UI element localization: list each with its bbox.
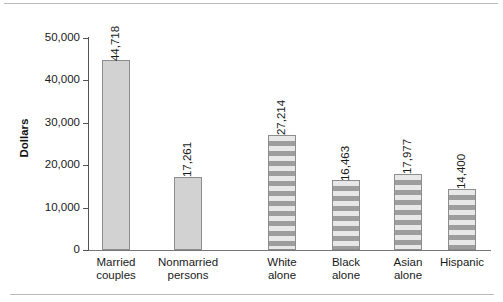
- x-axis-line: [88, 250, 491, 251]
- x-axis-category-label-line1: Nonmarried: [152, 256, 224, 269]
- bottom-divider-rule: [10, 294, 494, 295]
- x-axis-category-label-line2: alone: [246, 269, 318, 282]
- y-axis-line: [88, 37, 89, 251]
- top-divider-rule: [4, 3, 498, 4]
- y-axis-tick-label: 0: [74, 244, 80, 256]
- x-axis-category-label-line2: persons: [152, 269, 224, 282]
- y-axis-tick-label-row: 0: [0, 250, 80, 251]
- x-axis-category-label-line1: White: [246, 256, 318, 269]
- bar: [174, 177, 202, 250]
- y-axis-tick-label-row: 50,000: [0, 38, 80, 39]
- x-axis-category-label: Whitealone: [246, 256, 318, 282]
- bar: [448, 189, 476, 250]
- y-axis-tick: [83, 165, 89, 166]
- y-axis-tick-label: 50,000: [45, 32, 80, 44]
- bar-value-label: 14,400: [456, 149, 469, 195]
- bar: [102, 60, 130, 250]
- x-axis-category-label-line1: Married: [80, 256, 152, 269]
- bar-value-label: 17,977: [402, 134, 415, 180]
- bar-value-label: 44,718: [110, 20, 123, 66]
- x-axis-category-label: Nonmarriedpersons: [152, 256, 224, 282]
- bar: [394, 174, 422, 250]
- bar-value-label: 16,463: [340, 140, 353, 186]
- y-axis-tick-label-row: 40,000: [0, 80, 80, 81]
- bar-value-label: 17,261: [182, 137, 195, 183]
- x-axis-category-label-line2: alone: [372, 269, 444, 282]
- y-axis-tick-label: 20,000: [45, 159, 80, 171]
- y-axis-tick-label-row: 20,000: [0, 165, 80, 166]
- y-axis-tick-label-row: 10,000: [0, 208, 80, 209]
- y-axis-tick: [83, 208, 89, 209]
- bar-chart-figure: Dollars 010,00020,00030,00040,00050,000 …: [0, 0, 503, 302]
- y-axis-title: Dollars: [18, 108, 30, 168]
- y-axis-tick: [83, 38, 89, 39]
- y-axis-tick: [83, 123, 89, 124]
- bar: [268, 135, 296, 250]
- x-axis-category-label: Hispanic: [426, 256, 498, 269]
- y-axis-tick-label: 10,000: [45, 202, 80, 214]
- y-axis-tick-label: 30,000: [45, 117, 80, 129]
- y-axis-tick: [83, 250, 89, 251]
- y-axis-tick-label-row: 30,000: [0, 123, 80, 124]
- bar: [332, 180, 360, 250]
- y-axis-tick-label: 40,000: [45, 74, 80, 86]
- x-axis-category-label-line2: couples: [80, 269, 152, 282]
- y-axis-tick: [83, 80, 89, 81]
- x-axis-category-label: Marriedcouples: [80, 256, 152, 282]
- x-axis-category-label-line1: Hispanic: [426, 256, 498, 269]
- bar-value-label: 27,214: [276, 95, 289, 141]
